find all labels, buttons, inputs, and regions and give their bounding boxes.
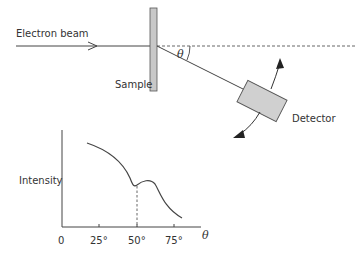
x-axis-label: θ [202, 229, 209, 242]
diagram-canvas: Electron beam Sample θ Detector 0 25° 50… [0, 0, 359, 261]
x-tick-label-75: 75° [165, 235, 183, 246]
arrow-up-icon [276, 58, 284, 69]
electron-diffraction-diagram: Electron beam Sample θ Detector 0 25° 50… [0, 0, 359, 261]
detector [237, 80, 287, 121]
angle-theta-label: θ [177, 48, 184, 61]
x-tick-label-50: 50° [128, 235, 146, 246]
detector-label: Detector [292, 113, 336, 124]
rotation-arc-up [271, 66, 279, 89]
intensity-curve [87, 143, 182, 218]
y-axis-label: Intensity [19, 175, 63, 186]
x-tick-label-25: 25° [90, 235, 108, 246]
arrow-down-icon [233, 130, 245, 138]
x-tick-label-0: 0 [58, 235, 64, 246]
angle-arc [187, 46, 190, 60]
sample-label: Sample [115, 79, 153, 90]
electron-beam-label: Electron beam [16, 28, 89, 39]
diffracted-beam-line [157, 46, 247, 91]
